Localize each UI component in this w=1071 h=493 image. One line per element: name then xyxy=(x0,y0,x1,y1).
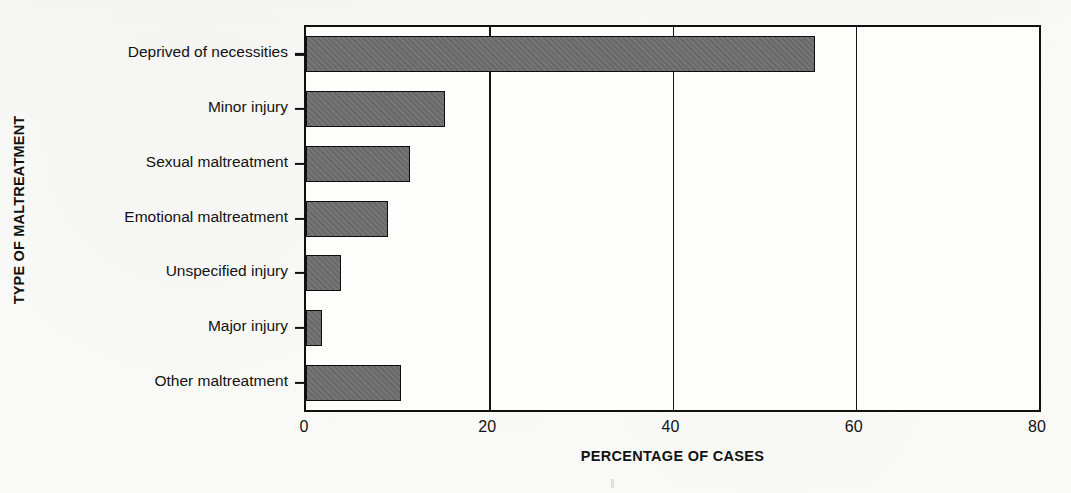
y-axis-title: TYPE OF MALTREATMENT xyxy=(0,0,38,420)
gridline-x-60 xyxy=(856,27,858,410)
y-axis-tick xyxy=(295,217,306,219)
y-axis-tick-label: Deprived of necessities xyxy=(128,43,288,61)
x-axis-tick-label: 0 xyxy=(300,418,309,436)
bar-chart-figure: TYPE OF MALTREATMENT Deprived of necessi… xyxy=(0,0,1071,493)
y-axis-title-text: TYPE OF MALTREATMENT xyxy=(11,116,27,305)
x-axis-tick-label: 40 xyxy=(662,418,680,436)
y-axis-tick-label: Emotional maltreatment xyxy=(124,208,288,226)
x-axis-tick-label: 80 xyxy=(1028,418,1046,436)
plot-area xyxy=(304,25,1041,412)
y-axis-tick xyxy=(295,327,306,329)
x-axis-tick-label: 20 xyxy=(478,418,496,436)
gridline-x-20 xyxy=(489,27,491,410)
y-axis-tick xyxy=(295,53,306,55)
bar xyxy=(306,91,445,127)
bar xyxy=(306,201,388,237)
y-axis-tick-label: Unspecified injury xyxy=(166,262,288,280)
x-axis-title: PERCENTAGE OF CASES xyxy=(304,448,1041,464)
bar xyxy=(306,36,815,72)
y-axis-tick xyxy=(295,382,306,384)
x-axis-tick-label: 60 xyxy=(845,418,863,436)
y-axis-tick-label: Other maltreatment xyxy=(154,372,288,390)
gridline-x-40 xyxy=(673,27,675,410)
x-axis-tick-labels: 020406080 xyxy=(304,418,1041,442)
y-axis-tick-label: Sexual maltreatment xyxy=(146,153,288,171)
y-axis-tick xyxy=(295,163,306,165)
y-axis-tick-label: Major injury xyxy=(208,317,288,335)
y-axis-tick-label: Minor injury xyxy=(208,98,288,116)
bar xyxy=(306,146,410,182)
scan-artifact-mark xyxy=(611,479,614,488)
bar xyxy=(306,255,341,291)
y-axis-tick xyxy=(295,272,306,274)
bar xyxy=(306,310,322,346)
y-axis-tick-labels: Deprived of necessitiesMinor injurySexua… xyxy=(40,22,288,412)
y-axis-tick xyxy=(295,108,306,110)
bar xyxy=(306,365,401,401)
